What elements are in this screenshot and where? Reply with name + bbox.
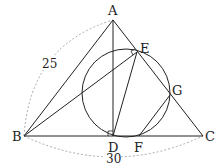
segment-ab <box>24 20 113 136</box>
label-c: C <box>205 129 215 144</box>
label-a: A <box>107 3 118 18</box>
segment-fg <box>139 95 170 136</box>
label-e: E <box>140 41 150 56</box>
measurement-bc: 30 <box>106 152 121 166</box>
label-g: G <box>172 83 182 98</box>
label-f: F <box>134 140 143 155</box>
measurement-ab: 25 <box>42 57 57 71</box>
label-b: B <box>12 129 22 144</box>
geometry-diagram: A B C D E F G 25 30 <box>0 0 216 168</box>
segment-de <box>113 52 137 136</box>
circle <box>82 49 170 137</box>
segment-ac <box>113 20 203 136</box>
diagram-svg: A B C D E F G 25 30 <box>0 0 216 168</box>
